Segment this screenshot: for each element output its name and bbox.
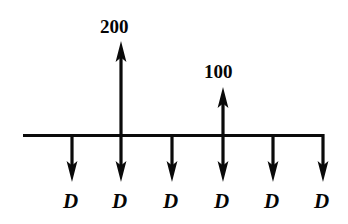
up-arrow-200 [116,41,127,136]
reaction-label-3: D [163,191,178,212]
down-arrow-5 [268,134,279,182]
reaction-label-4: D [214,191,229,212]
down-arrow-4 [218,134,229,182]
reaction-label-2: D [112,191,127,212]
beam-load-diagram: 200 100 D D D D D D [0,0,348,224]
reaction-label-6: D [314,191,329,212]
up-arrow-100 [218,87,229,136]
down-arrow-1 [67,134,78,182]
reaction-label-5: D [264,191,279,212]
down-arrow-3 [167,134,178,182]
load-label-200: 200 [100,17,129,36]
reaction-label-1: D [63,191,78,212]
down-arrow-6 [318,134,329,182]
down-arrow-2 [116,134,127,182]
load-label-100: 100 [204,62,233,81]
